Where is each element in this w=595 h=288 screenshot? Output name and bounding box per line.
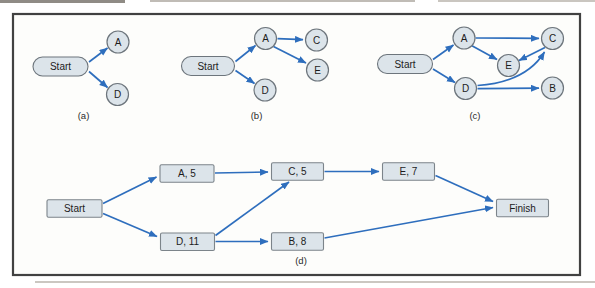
node-d-A5: A, 5 [160,165,214,183]
node-c-C: C [542,28,564,50]
network-diagrams-figure: StartAD(a)StartACED(b)StartACEDB(c)Start… [0,0,595,288]
node-label: A, 5 [178,168,196,179]
node-b-E: E [307,59,329,81]
caption-d: (d) [295,255,307,266]
node-b-A: A [255,28,277,50]
node-a-A: A [107,31,129,53]
node-d-Finish: Finish [497,199,549,217]
edge-c-D-B [478,88,540,89]
node-d-B8: B, 8 [272,233,324,251]
node-label: Finish [509,203,536,214]
node-c-E: E [498,55,520,77]
node-label: B, 8 [289,236,307,247]
node-label: E [505,60,512,71]
node-c-A: A [453,27,475,49]
node-label: C, 5 [288,166,307,177]
caption-b: (b) [251,110,263,121]
scan-artifact-top-mid [150,0,415,2]
node-d-E7: E, 7 [383,163,435,181]
edge-b-A-C [278,39,304,40]
node-d-Start: Start [47,200,102,218]
node-label: Start [197,61,218,72]
node-d-C5: C, 5 [272,163,324,181]
node-label: D [261,85,268,96]
node-b-Start: Start [182,57,235,76]
node-label: D, 11 [176,236,200,247]
node-label: A [461,33,468,44]
node-label: C [313,35,320,46]
node-label: Start [50,61,71,72]
caption-a: (a) [78,110,90,121]
node-d-D11: D, 11 [161,233,215,251]
node-a-Start: Start [33,57,88,76]
node-c-D: D [455,78,477,100]
node-label: Start [64,203,85,214]
node-label: A [262,33,269,44]
scan-artifact-bottom [35,281,595,283]
node-label: Start [394,59,415,70]
scan-artifact-top-left [0,0,125,3]
node-c-B: B [542,77,564,99]
node-label: A [115,37,122,48]
node-c-Start: Start [378,55,433,74]
edge-d-A5-C5 [215,172,268,173]
node-b-D: D [254,79,276,101]
node-label: D [462,83,469,94]
node-b-C: C [306,29,328,51]
node-label: E [314,65,321,76]
caption-c: (c) [469,110,480,121]
node-a-D: D [107,84,129,106]
scan-artifact-top-right [438,0,595,2]
node-label: C [549,33,556,44]
node-label: E, 7 [400,166,418,177]
node-label: D [114,89,121,100]
figure-page: StartAD(a)StartACED(b)StartACEDB(c)Start… [0,0,595,288]
node-label: B [549,83,556,94]
